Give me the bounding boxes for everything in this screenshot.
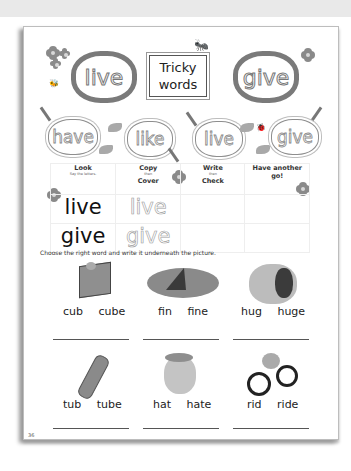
leaf-icon <box>256 145 270 154</box>
column-title: Write <box>203 164 223 172</box>
flower-icon <box>303 50 313 60</box>
featured-word: give <box>243 65 290 90</box>
word-choices: tub tube <box>63 398 122 411</box>
practice-cloud: live <box>195 121 243 157</box>
leaf-icon <box>108 123 122 132</box>
word-choices: cub cube <box>63 305 125 318</box>
another-go-cell[interactable] <box>245 195 310 224</box>
column-header-another-go: Have another go! <box>245 164 310 195</box>
mouse-icon <box>86 262 96 270</box>
write-cell[interactable] <box>181 195 245 224</box>
bicycle-wheel-icon <box>276 365 298 387</box>
answer-line[interactable] <box>53 428 129 429</box>
another-go-cell[interactable] <box>245 224 310 253</box>
practice-cloud: have <box>48 119 98 155</box>
trace-word: live <box>116 195 181 224</box>
answer-line[interactable] <box>143 339 219 340</box>
look-copy-write-grid: Look Say the letters. Copy then Cover Wr… <box>50 163 310 253</box>
practice-word: live <box>204 129 234 149</box>
mouse-icon <box>262 353 280 369</box>
answer-line[interactable] <box>53 339 129 340</box>
leaf-icon <box>99 145 113 154</box>
featured-word-cloud: live <box>71 51 137 103</box>
title-line: words <box>150 76 206 93</box>
ant-icon: 🐜 <box>171 38 231 54</box>
bee-icon: 🐝 <box>49 79 59 88</box>
answer-line[interactable] <box>143 428 219 429</box>
leaf-icon <box>240 123 254 132</box>
practice-word: like <box>135 129 164 149</box>
word-choices: hat hate <box>153 398 211 411</box>
practice-word: give <box>277 127 313 147</box>
page-title: Tricky words <box>149 55 207 97</box>
flower-icon <box>61 50 68 57</box>
instruction-text: Choose the right word and write it under… <box>40 249 216 256</box>
featured-word: live <box>85 65 124 90</box>
column-title: go! <box>271 172 283 180</box>
column-subtitle: Say the letters. <box>51 172 115 177</box>
grid-row: live live <box>51 195 310 224</box>
column-title: Check <box>202 177 224 185</box>
flower-icon <box>52 60 59 67</box>
page-number: 36 <box>28 432 34 438</box>
word-choices: fin fine <box>158 305 208 318</box>
bicycle-wheel-icon <box>247 372 271 396</box>
hat-icon <box>165 353 193 362</box>
practice-cloud: like <box>127 121 173 157</box>
word-choices: hug huge <box>241 305 305 318</box>
answer-line[interactable] <box>233 428 309 429</box>
practice-word: have <box>52 127 94 147</box>
pencil-icon <box>186 112 198 127</box>
column-header-write: Write then Check <box>181 164 245 195</box>
column-title: Look <box>74 164 91 172</box>
bee-icon <box>275 268 293 298</box>
bug-icon: 🐞 <box>256 123 266 132</box>
column-title: Cover <box>138 177 159 185</box>
column-header-look: Look Say the letters. <box>51 164 116 195</box>
pencil-icon <box>311 107 323 122</box>
flower-icon <box>48 48 58 58</box>
practice-cloud: give <box>271 119 319 155</box>
look-word: live <box>51 195 116 224</box>
top-band <box>0 0 351 17</box>
column-title: Have another <box>252 164 302 172</box>
featured-word-cloud: give <box>233 51 299 103</box>
column-header-copy: Copy then Cover <box>116 164 181 195</box>
word-choices: rid ride <box>247 398 298 411</box>
answer-line[interactable] <box>233 339 309 340</box>
pencil-icon <box>40 107 52 122</box>
title-line: Tricky <box>150 59 206 76</box>
pencil-icon <box>168 148 180 163</box>
column-title: Copy <box>139 164 157 172</box>
